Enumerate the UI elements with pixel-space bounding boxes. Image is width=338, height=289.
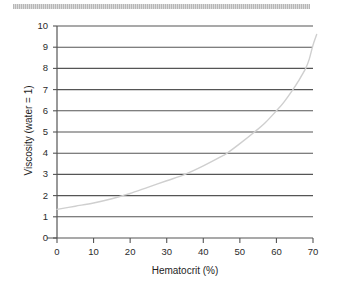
- x-tick-label-60: 60: [261, 247, 291, 257]
- x-tick-label-50: 50: [225, 247, 255, 257]
- x-tick-label-30: 30: [152, 247, 182, 257]
- y-axis-title: Viscosity (water = 1): [23, 51, 34, 211]
- gridlines-group: [57, 26, 313, 217]
- y-tick-label-0: 0: [26, 233, 48, 243]
- series-line-0: [57, 34, 317, 209]
- x-tick-label-20: 20: [115, 247, 145, 257]
- x-tick-label-0: 0: [42, 247, 72, 257]
- x-axis-title: Hematocrit (%): [57, 265, 313, 276]
- series-paths-group: [57, 34, 317, 209]
- x-tick-label-40: 40: [188, 247, 218, 257]
- y-tick-label-10: 10: [26, 21, 48, 31]
- x-tick-label-10: 10: [79, 247, 109, 257]
- x-tick-label-70: 70: [298, 247, 328, 257]
- tick-marks-group: [53, 26, 313, 243]
- chart-figure: 012345678910 010203040506070 Hematocrit …: [0, 0, 338, 289]
- y-tick-label-1: 1: [26, 212, 48, 222]
